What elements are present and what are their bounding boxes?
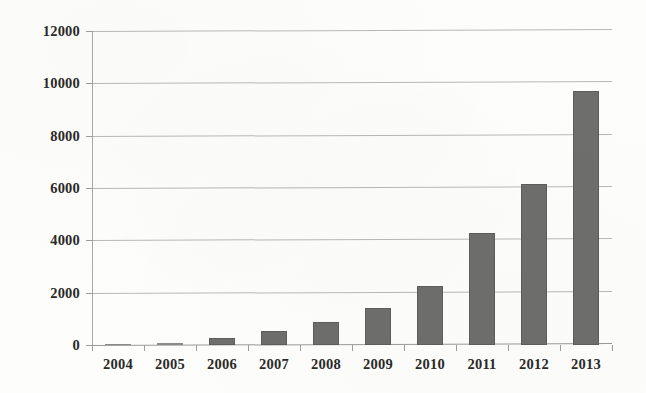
- x-axis-tick-label: 2006: [192, 356, 252, 373]
- x-axis-tick-label: 2004: [88, 356, 148, 373]
- y-tick-6000: [86, 188, 93, 189]
- x-axis-tick-label: 2011: [452, 356, 512, 373]
- x-tick-2007: [248, 345, 249, 351]
- bar-chart: 020004000600080001000012000 200420052006…: [0, 0, 646, 393]
- x-tick-2013: [560, 345, 561, 351]
- y-tick-12000: [86, 31, 93, 32]
- x-axis-labels: 2004200520062007200820092010201120122013: [0, 0, 646, 393]
- y-tick-4000: [86, 240, 93, 241]
- x-tick-2012: [508, 345, 509, 351]
- x-tick-2008: [300, 345, 301, 351]
- x-axis-tick-label: 2005: [140, 356, 200, 373]
- y-tick-2000: [86, 293, 93, 294]
- x-tick-2011: [456, 345, 457, 351]
- x-axis-tick-label: 2008: [296, 356, 356, 373]
- x-tick-2004: [92, 345, 93, 351]
- x-axis-tick-label: 2007: [244, 356, 304, 373]
- x-tick-end: [612, 345, 613, 351]
- y-tick-10000: [86, 83, 93, 84]
- x-axis-tick-label: 2013: [556, 356, 616, 373]
- x-tick-2009: [352, 345, 353, 351]
- x-axis-tick-label: 2010: [400, 356, 460, 373]
- x-tick-2006: [196, 345, 197, 351]
- x-axis-tick-label: 2009: [348, 356, 408, 373]
- x-tick-2005: [144, 345, 145, 351]
- y-tick-8000: [86, 136, 93, 137]
- x-tick-2010: [404, 345, 405, 351]
- x-axis-tick-label: 2012: [504, 356, 564, 373]
